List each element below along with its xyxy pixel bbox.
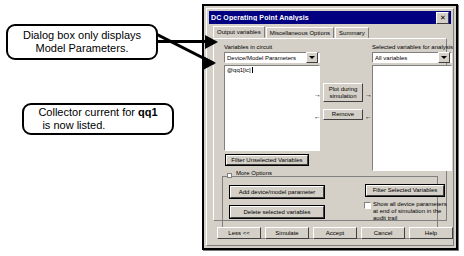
variables-in-circuit-combo-value: Device/Model Parameters xyxy=(225,55,306,61)
dc-operating-point-analysis-dialog: DC Operating Point Analysis ✕ Output var… xyxy=(202,4,458,250)
plot-during-simulation-button[interactable]: Plot during simulation xyxy=(323,83,363,102)
show-all-device-parameters-label: Show all device parameters at end of sim… xyxy=(373,201,447,222)
callout-line-1-bold: qq1 xyxy=(138,106,158,118)
less-button[interactable]: Less << xyxy=(217,227,261,239)
variables-in-circuit-combo[interactable]: Device/Model Parameters xyxy=(224,52,320,63)
callout-2-arrowhead-icon xyxy=(203,56,216,70)
delete-selected-variables-button[interactable]: Delete selected variables xyxy=(230,206,324,218)
transfer-arrow-left-to-left-icon: ← xyxy=(314,113,320,120)
dialog-title: DC Operating Point Analysis xyxy=(211,14,436,21)
text-caret-icon xyxy=(252,67,253,73)
show-all-device-parameters-checkbox-row[interactable]: Show all device parameters at end of sim… xyxy=(364,201,450,222)
accept-button[interactable]: Accept xyxy=(313,227,357,239)
tab-strip: Output variables Miscellaneous Options S… xyxy=(213,27,447,38)
transfer-arrow-right-to-right-icon: → xyxy=(365,91,371,98)
list-item-label: @qq1[ic] xyxy=(227,67,251,73)
callout-1-arrowhead-icon xyxy=(205,35,218,49)
plot-during-simulation-label-2: simulation xyxy=(329,93,356,100)
more-options-toggle-checkbox[interactable] xyxy=(227,173,232,178)
help-button[interactable]: Help xyxy=(409,227,453,239)
transfer-arrow-right-from-left-icon: → xyxy=(314,91,320,98)
callout-line-1-prefix: Collector current for xyxy=(38,106,138,118)
selected-variables-combo-value: All variables xyxy=(373,55,438,61)
callout-model-parameters: Dialog box only displays Model Parameter… xyxy=(6,24,158,60)
label-variables-in-circuit: Variables in circuit xyxy=(224,44,272,50)
selected-variables-listbox[interactable] xyxy=(372,65,452,171)
filter-unselected-variables-button[interactable]: Filter Unselected Variables xyxy=(226,155,308,165)
more-options-group-label: More Options xyxy=(234,170,274,176)
tab-summary[interactable]: Summary xyxy=(335,27,369,38)
callout-line-1: Dialog box only displays xyxy=(23,29,141,41)
checkbox-label-line-2: at end of simulation in the xyxy=(373,208,441,214)
close-icon[interactable]: ✕ xyxy=(436,12,449,24)
variables-in-circuit-listbox[interactable]: @qq1[ic] xyxy=(224,65,320,151)
list-item[interactable]: @qq1[ic] xyxy=(225,66,319,73)
callout-model-parameters-text: Dialog box only displays Model Parameter… xyxy=(23,29,141,55)
callout-line-2: Model Parameters. xyxy=(36,42,129,54)
label-selected-variables-for-analysis: Selected variables for analysis xyxy=(372,44,453,50)
checkbox-label-line-3: audit trail xyxy=(373,215,397,221)
dialog-titlebar[interactable]: DC Operating Point Analysis ✕ xyxy=(209,11,451,24)
remove-button[interactable]: Remove xyxy=(323,109,363,120)
dialog-button-bar: Less << Simulate Accept Cancel Help xyxy=(213,227,447,241)
tab-miscellaneous-options[interactable]: Miscellaneous Options xyxy=(266,27,334,38)
add-device-model-parameter-button[interactable]: Add device/model parameter xyxy=(230,186,324,198)
tab-output-variables[interactable]: Output variables xyxy=(213,26,265,38)
chevron-down-icon[interactable] xyxy=(306,52,318,63)
chevron-down-icon[interactable] xyxy=(438,52,450,63)
dialog-client-area: DC Operating Point Analysis ✕ Output var… xyxy=(206,8,454,246)
callout-collector-current: Collector current for qq1 is now listed. xyxy=(22,103,174,135)
plot-during-simulation-label-1: Plot during xyxy=(329,86,358,93)
selected-variables-combo[interactable]: All variables xyxy=(372,52,452,63)
callout-line-2: is now listed. xyxy=(38,119,157,132)
cancel-button[interactable]: Cancel xyxy=(361,227,405,239)
tab-panel-output-variables: Variables in circuit Device/Model Parame… xyxy=(213,38,447,221)
checkbox-label-line-1: Show all device parameters xyxy=(373,201,447,207)
transfer-arrow-left-from-right-icon: ← xyxy=(365,113,371,120)
simulate-button[interactable]: Simulate xyxy=(265,227,309,239)
filter-selected-variables-button[interactable]: Filter Selected Variables xyxy=(366,185,444,196)
show-all-device-parameters-checkbox[interactable] xyxy=(364,202,371,209)
callout-collector-current-text: Collector current for qq1 is now listed. xyxy=(38,106,157,132)
callout-1-pointer-line xyxy=(156,40,212,43)
